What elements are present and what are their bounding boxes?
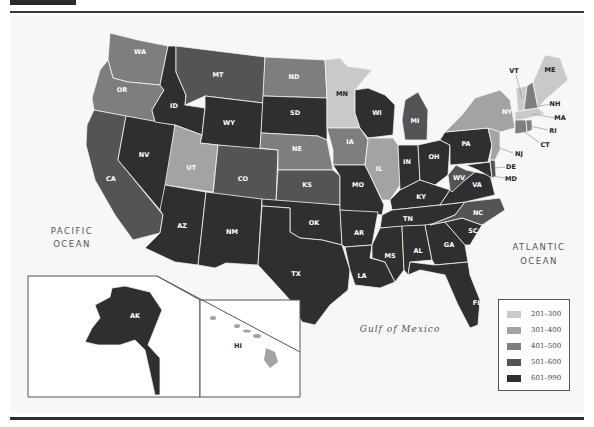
label-DE: DE [506, 163, 516, 171]
label-ND: ND [289, 73, 300, 81]
atlantic-ocean-label: ATLANTIC [512, 242, 565, 252]
legend-label: 201–300 [531, 310, 561, 318]
label-WY: WY [223, 119, 235, 127]
label-WV: WV [453, 174, 465, 182]
legend-label: 301–400 [531, 326, 561, 334]
legend: 201–300 301–400 401–500 501–600 601–990 [498, 299, 570, 391]
label-ID: ID [170, 102, 178, 110]
label-HI: HI [234, 342, 242, 350]
label-NE: NE [292, 145, 302, 153]
legend-swatch [507, 359, 521, 366]
label-IN: IN [403, 158, 411, 166]
label-UT: UT [186, 164, 196, 172]
label-WI: WI [372, 109, 382, 117]
label-NM: NM [226, 228, 238, 236]
label-MO: MO [352, 181, 364, 189]
bottom-rule [10, 417, 584, 420]
label-LA: LA [357, 272, 366, 280]
label-MA: MA [554, 114, 566, 122]
legend-swatch [507, 311, 521, 318]
gulf-of-mexico-label: Gulf of Mexico [360, 324, 441, 334]
label-NY: NY [502, 108, 512, 116]
state-OH[interactable] [418, 140, 450, 185]
legend-item: 301–400 [507, 322, 569, 338]
label-AL: AL [413, 247, 422, 255]
state-CT[interactable] [515, 120, 527, 134]
state-IA[interactable] [327, 128, 368, 165]
label-CA: CA [106, 175, 116, 183]
state-WA[interactable] [108, 33, 168, 85]
legend-label: 601–990 [531, 374, 561, 382]
label-NH: NH [550, 100, 561, 108]
alaska-inset: AK [28, 276, 200, 397]
label-CT: CT [540, 141, 550, 149]
label-ME: ME [545, 66, 556, 74]
label-TN: TN [403, 215, 413, 223]
label-KY: KY [416, 193, 426, 201]
label-AZ: AZ [177, 222, 187, 230]
pacific-ocean-label-2: OCEAN [53, 239, 91, 249]
legend-item: 601–990 [507, 370, 569, 386]
label-TX: TX [291, 270, 300, 278]
state-CO[interactable] [213, 145, 278, 202]
label-VA: VA [472, 181, 482, 189]
label-MI: MI [411, 117, 420, 125]
label-IL: IL [376, 165, 383, 173]
label-MT: MT [213, 71, 224, 79]
label-GA: GA [444, 241, 454, 249]
label-OR: OR [117, 86, 128, 94]
label-NV: NV [139, 151, 149, 159]
label-FL: FL [473, 299, 482, 307]
atlantic-ocean-label-2: OCEAN [520, 256, 558, 266]
legend-item: 401–500 [507, 338, 569, 354]
label-AK: AK [130, 312, 141, 320]
label-SD: SD [290, 109, 301, 117]
legend-label: 501–600 [531, 358, 561, 366]
label-RI: RI [549, 127, 556, 135]
label-NC: NC [473, 209, 483, 217]
label-WA: WA [134, 48, 146, 56]
pacific-ocean-label: PACIFIC [51, 226, 94, 236]
label-AR: AR [354, 229, 364, 237]
label-PA: PA [461, 140, 470, 148]
legend-item: 501–600 [507, 354, 569, 370]
label-CO: CO [238, 175, 249, 183]
label-MD: MD [505, 175, 517, 183]
legend-label: 401–500 [531, 342, 561, 350]
label-MS: MS [384, 252, 395, 260]
legend-swatch [507, 327, 521, 334]
state-FL[interactable] [408, 262, 480, 328]
legend-swatch [507, 343, 521, 350]
label-OK: OK [309, 219, 321, 227]
legend-item: 201–300 [507, 306, 569, 322]
label-KS: KS [302, 181, 312, 189]
label-VT: VT [509, 67, 519, 75]
label-SC: SC [468, 227, 478, 235]
label-IA: IA [346, 138, 353, 146]
label-MN: MN [336, 90, 348, 98]
label-OH: OH [429, 153, 440, 161]
legend-swatch [507, 375, 521, 382]
label-NJ: NJ [515, 150, 523, 158]
